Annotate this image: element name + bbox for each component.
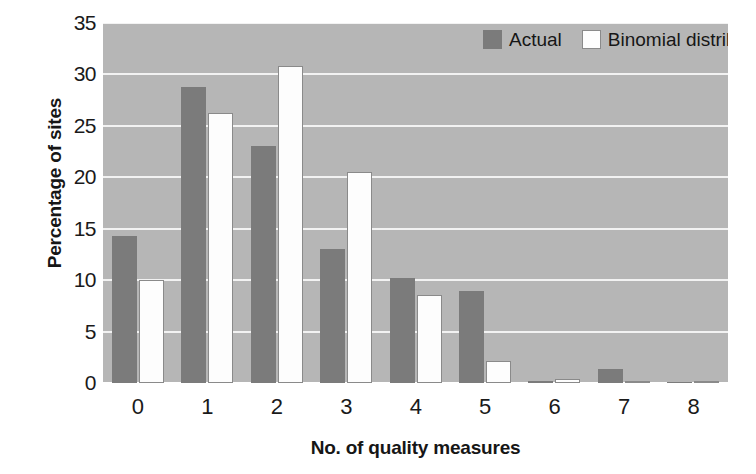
x-tick-mark-6	[553, 383, 555, 394]
y-tick-label-15: 15	[40, 217, 96, 241]
bar-actual-4[interactable]	[390, 278, 415, 383]
bar-binomial-5[interactable]	[486, 361, 511, 383]
x-tick-mark-4	[415, 383, 417, 394]
bar-group-4	[390, 23, 442, 383]
plot-area: Actual Binomial distribution	[103, 23, 728, 383]
x-tick-mark-3	[345, 383, 347, 394]
x-tick-mark-0	[137, 383, 139, 394]
x-tick-mark-5	[484, 383, 486, 394]
bar-actual-2[interactable]	[251, 146, 276, 383]
y-tick-label-5: 5	[40, 320, 96, 344]
bar-group-8	[667, 23, 719, 383]
bar-group-5	[459, 23, 511, 383]
y-tick-label-25: 25	[40, 114, 96, 138]
x-tick-label-3: 3	[316, 394, 376, 420]
x-axis-tick-labels: 012345678	[103, 394, 728, 428]
y-tick-label-35: 35	[40, 11, 96, 35]
y-axis-tick-labels: 05101520253035	[40, 23, 96, 383]
x-tick-mark-7	[623, 383, 625, 394]
bar-actual-0[interactable]	[112, 236, 137, 383]
x-tick-label-7: 7	[594, 394, 654, 420]
legend-label-actual: Actual	[509, 30, 562, 49]
bar-group-0	[112, 23, 164, 383]
y-tick-label-30: 30	[40, 62, 96, 86]
x-tick-label-6: 6	[524, 394, 584, 420]
y-tick-label-10: 10	[40, 268, 96, 292]
bar-actual-5[interactable]	[459, 291, 484, 383]
x-tick-mark-2	[276, 383, 278, 394]
bar-binomial-2[interactable]	[278, 66, 303, 383]
bar-actual-1[interactable]	[181, 87, 206, 383]
bar-actual-7[interactable]	[598, 369, 623, 383]
x-tick-label-1: 1	[177, 394, 237, 420]
bar-binomial-0[interactable]	[139, 280, 164, 383]
x-tick-label-8: 8	[663, 394, 723, 420]
legend-label-binomial: Binomial distribution	[608, 30, 728, 49]
legend-swatch-actual-icon	[483, 30, 502, 49]
x-tick-label-4: 4	[386, 394, 446, 420]
x-tick-label-0: 0	[108, 394, 168, 420]
legend-entry-binomial[interactable]: Binomial distribution	[582, 30, 728, 49]
bar-group-1	[181, 23, 233, 383]
x-tick-mark-8	[692, 383, 694, 394]
y-tick-label-0: 0	[40, 371, 96, 395]
x-axis-title: No. of quality measures	[103, 437, 728, 459]
x-tick-label-2: 2	[247, 394, 307, 420]
legend-swatch-binomial-icon	[582, 30, 601, 49]
bar-binomial-1[interactable]	[208, 113, 233, 384]
y-tick-label-20: 20	[40, 165, 96, 189]
bar-group-7	[598, 23, 650, 383]
bar-binomial-4[interactable]	[417, 295, 442, 383]
legend-entry-actual[interactable]: Actual	[483, 30, 562, 49]
bar-binomial-3[interactable]	[347, 172, 372, 383]
bar-chart-figure: Percentage of sites 05101520253035 Actua…	[0, 0, 756, 474]
bar-groups	[103, 23, 728, 383]
x-tick-mark-1	[206, 383, 208, 394]
bar-group-3	[320, 23, 372, 383]
bar-group-6	[528, 23, 580, 383]
x-tick-label-5: 5	[455, 394, 515, 420]
bar-group-2	[251, 23, 303, 383]
bar-actual-3[interactable]	[320, 249, 345, 383]
chart-legend: Actual Binomial distribution	[483, 30, 728, 49]
